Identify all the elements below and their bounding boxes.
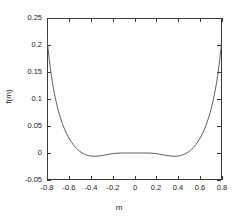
y-tick-label-0.1: 0.1	[10, 95, 42, 103]
y-tick-0.1	[47, 99, 51, 100]
y-tick--0.05	[47, 180, 51, 181]
y-tick-right-0.1	[217, 99, 221, 100]
x-tick-0.4	[178, 176, 179, 180]
x-tick-0	[135, 176, 136, 180]
x-tick-0.2	[156, 18, 157, 22]
x-tick--0.2	[113, 18, 114, 22]
y-tick-0.2	[47, 45, 51, 46]
y-tick-right-0	[217, 153, 221, 154]
y-tick-label--0.05: -0.05	[10, 176, 42, 184]
x-tick--0.4	[91, 18, 92, 22]
x-tick-0.8	[222, 176, 223, 180]
plot-frame-right	[221, 18, 222, 180]
y-tick-0.05	[47, 126, 51, 127]
x-axis-title: m	[0, 203, 238, 212]
y-tick-right-0.05	[217, 126, 221, 127]
y-tick-0	[47, 153, 51, 154]
plot-area	[47, 18, 222, 180]
y-tick-label-0.25: 0.25	[10, 14, 42, 22]
x-tick--0.4	[91, 176, 92, 180]
y-tick-0.25	[47, 18, 51, 19]
y-tick-label-0.05: 0.05	[10, 122, 42, 130]
y-tick-right-0.15	[217, 72, 221, 73]
y-tick-label-0.2: 0.2	[10, 41, 42, 49]
y-tick-right-0.2	[217, 45, 221, 46]
x-tick-0.6	[200, 18, 201, 22]
x-tick-0	[135, 18, 136, 22]
y-tick-0.15	[47, 72, 51, 73]
y-tick-label-0.15: 0.15	[10, 68, 42, 76]
y-tick-label-0: 0	[10, 149, 42, 157]
x-tick-0.4	[178, 18, 179, 22]
x-tick--0.2	[113, 176, 114, 180]
x-tick--0.6	[69, 176, 70, 180]
x-tick-0.6	[200, 176, 201, 180]
x-tick--0.6	[69, 18, 70, 22]
y-tick-right-0.25	[217, 18, 221, 19]
x-tick-0.2	[156, 176, 157, 180]
x-tick-0.8	[222, 18, 223, 22]
figure-double-well-free-energy: -0.8-0.6-0.4-0.200.20.40.60.8 -0.0500.05…	[0, 0, 238, 223]
x-tick-label-0.8: 0.8	[207, 184, 237, 192]
y-tick-right--0.05	[217, 180, 221, 181]
y-axis-title: f(m)	[4, 71, 13, 123]
